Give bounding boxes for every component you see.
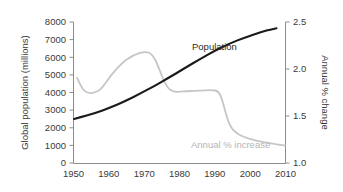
series-population — [74, 28, 277, 119]
x-tick-1970: 1970 — [134, 168, 155, 179]
left-tick-8000: 8000 — [45, 16, 66, 27]
series-annual-percent-increase — [77, 52, 285, 146]
right-tick-1-5: 1.5 — [293, 110, 306, 121]
left-tick-1000: 1000 — [45, 140, 66, 151]
annual-increase-series-label: Annual % increase — [191, 139, 270, 150]
left-tick-5000: 5000 — [45, 69, 66, 80]
x-axis-ticklabels: 1950 1960 1970 1980 1990 2000 2010 — [63, 168, 296, 179]
x-tick-1960: 1960 — [98, 168, 119, 179]
right-axis-ticklabels: 2.5 2.0 1.5 1.0 — [293, 16, 306, 168]
left-axis-ticks — [70, 22, 74, 163]
population-series-label: Population — [192, 41, 237, 52]
left-tick-4000: 4000 — [45, 87, 66, 98]
x-tick-1990: 1990 — [204, 168, 225, 179]
left-tick-0: 0 — [61, 157, 66, 168]
left-axis-title: Global population (millions) — [19, 35, 30, 150]
x-tick-2000: 2000 — [240, 168, 261, 179]
left-tick-6000: 6000 — [45, 52, 66, 63]
right-tick-2-0: 2.0 — [293, 63, 306, 74]
dual-axis-line-chart: 8000 7000 6000 5000 4000 3000 2000 1000 … — [0, 0, 343, 192]
left-tick-2000: 2000 — [45, 122, 66, 133]
right-tick-2-5: 2.5 — [293, 16, 306, 27]
x-tick-1980: 1980 — [169, 168, 190, 179]
x-tick-2010: 2010 — [275, 168, 296, 179]
chart-container: 8000 7000 6000 5000 4000 3000 2000 1000 … — [0, 0, 343, 192]
left-tick-7000: 7000 — [45, 34, 66, 45]
right-axis-title: Annual % change — [320, 55, 331, 129]
left-axis-ticklabels: 8000 7000 6000 5000 4000 3000 2000 1000 … — [45, 16, 66, 168]
left-tick-3000: 3000 — [45, 104, 66, 115]
right-axis-ticks — [286, 22, 290, 163]
right-tick-1-0: 1.0 — [293, 157, 306, 168]
x-tick-1950: 1950 — [63, 168, 84, 179]
